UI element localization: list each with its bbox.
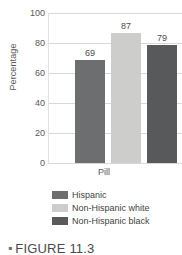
legend-item-label: Hispanic: [72, 190, 107, 200]
bar-hispanic: 69: [75, 60, 105, 164]
bar-value-label: 69: [85, 48, 95, 58]
bar-value-label: 87: [121, 21, 131, 31]
y-tick-label: 0: [40, 158, 45, 168]
legend-item: Hispanic: [52, 189, 182, 201]
y-tick-label: 40: [35, 98, 45, 108]
chart-plot-area: Percentage 020406080100 698779 Pill: [0, 0, 182, 176]
gridline: 0: [49, 163, 182, 164]
bar-non-hispanic-white: 87: [111, 33, 141, 164]
caption-text: FIGURE 11.3: [15, 242, 94, 255]
figure-container: Percentage 020406080100 698779 Pill Hisp…: [0, 0, 182, 255]
legend-item-label: Non-Hispanic black: [72, 216, 150, 226]
bars-group: 698779: [49, 13, 182, 163]
legend-item: Non-Hispanic black: [52, 215, 182, 227]
legend-swatch-icon: [52, 204, 68, 212]
bar-non-hispanic-black: 79: [147, 45, 177, 164]
y-tick-label: 80: [35, 38, 45, 48]
chart-legend: HispanicNon-Hispanic whiteNon-Hispanic b…: [52, 189, 182, 228]
figure-caption: ▪ FIGURE 11.3: [8, 242, 182, 255]
x-axis-title: Pill: [49, 167, 159, 177]
caption-bullet-icon: ▪: [8, 242, 12, 254]
y-tick-label: 100: [30, 8, 45, 18]
y-tick-label: 20: [35, 128, 45, 138]
legend-swatch-icon: [52, 217, 68, 225]
y-axis-title: Percentage: [8, 7, 18, 127]
bar-value-label: 79: [157, 33, 167, 43]
legend-item-label: Non-Hispanic white: [72, 203, 150, 213]
legend-item: Non-Hispanic white: [52, 202, 182, 214]
legend-swatch-icon: [52, 191, 68, 199]
y-tick-label: 60: [35, 68, 45, 78]
